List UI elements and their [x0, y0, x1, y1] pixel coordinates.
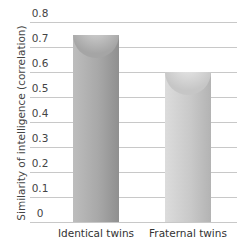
x-label-identical-twins: Identical twins	[51, 227, 141, 239]
bar-identical-twins	[73, 35, 119, 223]
y-tick-label: 0.7	[28, 32, 52, 44]
y-tick-label: 0	[28, 207, 52, 219]
bar-cap	[165, 72, 211, 95]
y-axis-label: Similarity of intelligence (correlation)	[15, 23, 29, 223]
gridline	[30, 22, 237, 23]
y-tick-label: 0.5	[28, 82, 52, 94]
y-tick-label: 0.6	[28, 57, 52, 69]
gridline	[30, 222, 237, 223]
bar-fraternal-twins	[165, 72, 211, 222]
y-tick-label: 0.2	[28, 157, 52, 169]
y-tick-label: 0.8	[28, 7, 52, 19]
y-tick-label: 0.4	[28, 107, 52, 119]
bar-cap	[73, 35, 119, 58]
y-tick-label: 0.3	[28, 132, 52, 144]
gridline	[30, 47, 237, 48]
y-tick-label: 0.1	[28, 182, 52, 194]
x-label-fraternal-twins: Fraternal twins	[143, 227, 233, 239]
